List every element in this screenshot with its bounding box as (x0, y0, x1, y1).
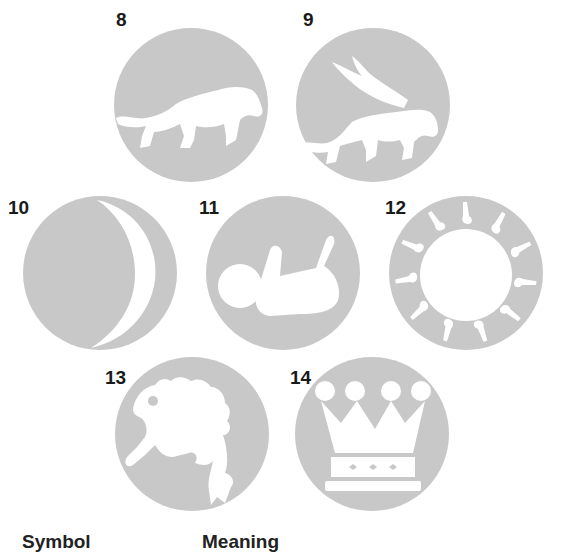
crescent-moon-icon (23, 196, 177, 350)
lion-icon (114, 28, 268, 182)
symbol-number-9: 9 (303, 10, 314, 29)
ball-and-arm-icon (206, 196, 360, 350)
symbol-number-8: 8 (116, 10, 127, 29)
column-header-meaning: Meaning (202, 532, 279, 551)
frog-icon (115, 357, 269, 511)
crown-icon (295, 357, 449, 511)
sun-ring-icon (389, 196, 543, 350)
column-header-symbol: Symbol (22, 532, 91, 551)
winged-lion-icon (296, 28, 450, 182)
